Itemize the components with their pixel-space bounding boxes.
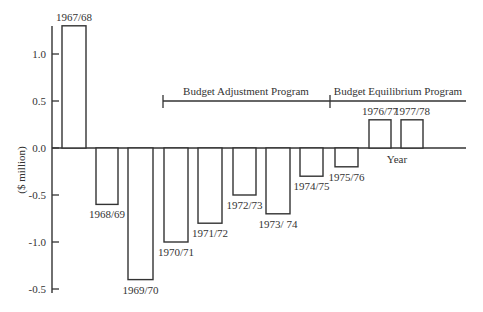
bar-1969-70 [128, 148, 153, 280]
bar-label: 1975/76 [328, 171, 365, 183]
y-tick-label: 0.0 [32, 142, 46, 154]
y-axis-label: ($ million) [15, 146, 28, 194]
bar-1975-76 [335, 148, 358, 167]
y-tick-label: -1.0 [29, 236, 47, 248]
y-tick-label: -0.5 [29, 283, 47, 295]
bar-1974-75 [300, 148, 323, 176]
y-tick-label: 1.0 [32, 48, 46, 60]
y-tick-label: -0.5 [29, 189, 47, 201]
bar-1972-73 [233, 148, 256, 195]
budget-adjustment-label: Budget Adjustment Program [183, 85, 309, 97]
y-tick-label: 0.5 [32, 95, 46, 107]
bars [62, 26, 423, 280]
bar-label: 1974/75 [293, 180, 330, 192]
bar-label: 1971/72 [192, 227, 228, 239]
bar-1968-69 [96, 148, 118, 204]
bar-label: 1973/ 74 [259, 218, 298, 230]
bar-label: 1967/68 [56, 11, 93, 23]
bar-1967-68 [62, 26, 86, 148]
bar-label: 1969/70 [122, 284, 159, 296]
bar-1976-77 [369, 120, 391, 148]
budget-equilibrium-label: Budget Equilibrium Program [334, 85, 463, 97]
bar-1971-72 [198, 148, 222, 223]
bar-1970-71 [164, 148, 188, 242]
bar-label: 1972/73 [226, 199, 263, 211]
bar-label: 1968/69 [89, 208, 126, 220]
bar-label: 1977/78 [394, 105, 431, 117]
x-axis-label: Year [387, 153, 408, 165]
bar-1973-74 [266, 148, 290, 214]
bar-1977-78 [401, 120, 423, 148]
bar-label: 1970/71 [158, 246, 194, 258]
bar-chart: 1.00.50.0-0.5-1.0-0.5 1967/681968/691969… [0, 0, 483, 312]
